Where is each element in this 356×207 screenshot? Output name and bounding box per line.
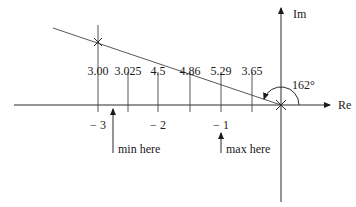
gain-label: 4.86 <box>180 64 201 78</box>
min-annotation: min here <box>118 142 160 156</box>
gain-label: 5.29 <box>211 64 232 78</box>
gain-label: 3.65 <box>242 64 263 78</box>
gain-label: 4.5 <box>151 64 166 78</box>
gain-label: 3.025 <box>115 64 142 78</box>
gain-label: 3.00 <box>88 64 109 78</box>
root-locus-diagram: 3.00 3.025 4.5 4.86 5.29 3.65 162° Im Re… <box>0 0 356 207</box>
tick-label: − 3 <box>90 118 106 132</box>
tick-label: − 1 <box>213 118 229 132</box>
imag-axis-label: Im <box>293 7 307 21</box>
tick-label: − 2 <box>150 118 166 132</box>
angle-label: 162° <box>292 78 315 92</box>
max-annotation: max here <box>226 142 270 156</box>
real-axis-label: Re <box>338 98 351 112</box>
